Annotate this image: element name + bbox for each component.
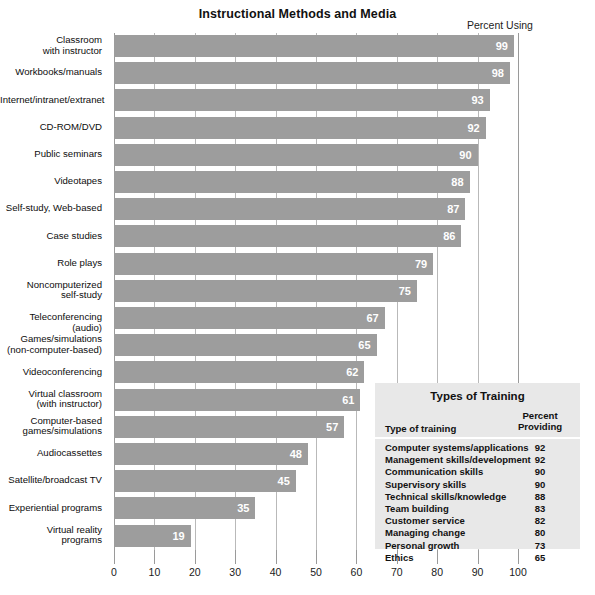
bar-value-label: 79 xyxy=(415,258,427,269)
bar-row: 45 xyxy=(114,470,296,492)
legend-row: Communication skills90 xyxy=(375,466,580,478)
legend-row-name: Ethics xyxy=(385,552,414,563)
bar-row: 86 xyxy=(114,225,461,247)
bar-row: 75 xyxy=(114,280,417,302)
category-label: Case studies xyxy=(0,231,108,242)
x-tick-mark-10 xyxy=(154,550,155,564)
legend-row-name: Supervisory skills xyxy=(385,479,466,490)
legend-row: Management skills/development92 xyxy=(375,454,580,466)
legend-row: Managing change80 xyxy=(375,527,580,539)
legend-header-percent-line2: Providing xyxy=(509,421,571,432)
bar-row: 99 xyxy=(114,35,514,57)
category-label: Role plays xyxy=(0,258,108,269)
legend-title: Types of Training xyxy=(375,390,580,402)
legend-row: Computer systems/applications92 xyxy=(375,442,580,454)
bar-value-label: 87 xyxy=(447,204,459,215)
x-tick-mark-50 xyxy=(316,550,317,564)
legend-row-value: 90 xyxy=(509,479,571,490)
bar-row: 57 xyxy=(114,416,344,438)
bar-row: 19 xyxy=(114,525,191,547)
x-tick-label-80: 80 xyxy=(417,566,457,578)
legend-header-row: Type of training Percent Providing xyxy=(375,410,580,436)
x-tick-label-50: 50 xyxy=(296,566,336,578)
category-label: Experiential programs xyxy=(0,503,108,514)
category-label: Internet/intranet/extranet xyxy=(0,95,108,106)
x-tick-mark-60 xyxy=(356,550,357,564)
legend-header-percent-providing: Percent Providing xyxy=(509,410,571,432)
legend-separator xyxy=(375,437,580,439)
bar-value-label: 45 xyxy=(278,476,290,487)
x-tick-mark-40 xyxy=(276,550,277,564)
bar: 98 xyxy=(114,62,510,84)
category-label: Satellite/broadcast TV xyxy=(0,475,108,486)
category-axis-labels: Classroom with instructorWorkbooks/manua… xyxy=(0,33,108,550)
bar-row: 65 xyxy=(114,334,377,356)
category-label: Noncomputerized self-study xyxy=(0,280,108,301)
x-tick-label-100: 100 xyxy=(498,566,538,578)
x-tick-label-60: 60 xyxy=(336,566,376,578)
legend-row-name: Customer service xyxy=(385,515,465,526)
bar-value-label: 67 xyxy=(366,313,378,324)
bar-value-label: 99 xyxy=(496,41,508,52)
bar-value-label: 35 xyxy=(237,503,249,514)
legend-row-name: Communication skills xyxy=(385,466,483,477)
legend-row-value: 83 xyxy=(509,503,571,514)
bar: 35 xyxy=(114,497,255,519)
category-label: Public seminars xyxy=(0,149,108,160)
legend-row: Customer service82 xyxy=(375,515,580,527)
bar: 65 xyxy=(114,334,377,356)
x-tick-label-30: 30 xyxy=(215,566,255,578)
bar-row: 61 xyxy=(114,389,360,411)
bar: 75 xyxy=(114,280,417,302)
bar: 67 xyxy=(114,307,385,329)
legend-row: Personal growth73 xyxy=(375,540,580,552)
bar: 88 xyxy=(114,171,470,193)
legend-row-value: 80 xyxy=(509,527,571,538)
bar-row: 67 xyxy=(114,307,385,329)
bar: 99 xyxy=(114,35,514,57)
bar: 86 xyxy=(114,225,461,247)
legend-row: Ethics65 xyxy=(375,552,580,564)
bar-value-label: 92 xyxy=(467,122,479,133)
bar-value-label: 62 xyxy=(346,367,358,378)
legend-row-name: Personal growth xyxy=(385,540,459,551)
legend-row-value: 90 xyxy=(509,466,571,477)
bar: 61 xyxy=(114,389,360,411)
legend-header-percent-line1: Percent xyxy=(509,410,571,421)
bar-value-label: 90 xyxy=(459,149,471,160)
category-label: Videoconferencing xyxy=(0,367,108,378)
bar-row: 88 xyxy=(114,171,470,193)
category-label: Classroom with instructor xyxy=(0,35,108,56)
category-label: Teleconferencing (audio) xyxy=(0,312,108,333)
legend-row: Technical skills/knowledge88 xyxy=(375,491,580,503)
x-tick-label-70: 70 xyxy=(377,566,417,578)
legend-header-type-of-training: Type of training xyxy=(385,423,456,434)
bar-row: 87 xyxy=(114,198,465,220)
bar: 93 xyxy=(114,89,490,111)
legend-row-value: 65 xyxy=(509,552,571,563)
bar: 48 xyxy=(114,443,308,465)
legend-row-name: Team building xyxy=(385,503,449,514)
category-label: Audiocassettes xyxy=(0,448,108,459)
x-tick-label-20: 20 xyxy=(175,566,215,578)
bar-row: 79 xyxy=(114,253,433,275)
category-label: Computer-based games/simulations xyxy=(0,416,108,437)
legend-rows: Computer systems/applications92Managemen… xyxy=(375,442,580,564)
bar-row: 35 xyxy=(114,497,255,519)
legend-row-value: 73 xyxy=(509,540,571,551)
bar-value-label: 65 xyxy=(358,340,370,351)
legend-row: Team building83 xyxy=(375,503,580,515)
category-label: Videotapes xyxy=(0,176,108,187)
category-label: Virtual reality programs xyxy=(0,525,108,546)
bar-value-label: 61 xyxy=(342,394,354,405)
bar-value-label: 98 xyxy=(492,68,504,79)
chart-container: Instructional Methods and Media Percent … xyxy=(0,0,595,595)
bar-value-label: 88 xyxy=(451,177,463,188)
bar-value-label: 48 xyxy=(290,449,302,460)
legend-row-value: 88 xyxy=(509,491,571,502)
x-tick-mark-30 xyxy=(235,550,236,564)
category-label: Self-study, Web-based xyxy=(0,203,108,214)
bar-value-label: 57 xyxy=(326,421,338,432)
x-tick-mark-0 xyxy=(114,550,115,564)
legend-row-name: Managing change xyxy=(385,527,465,538)
